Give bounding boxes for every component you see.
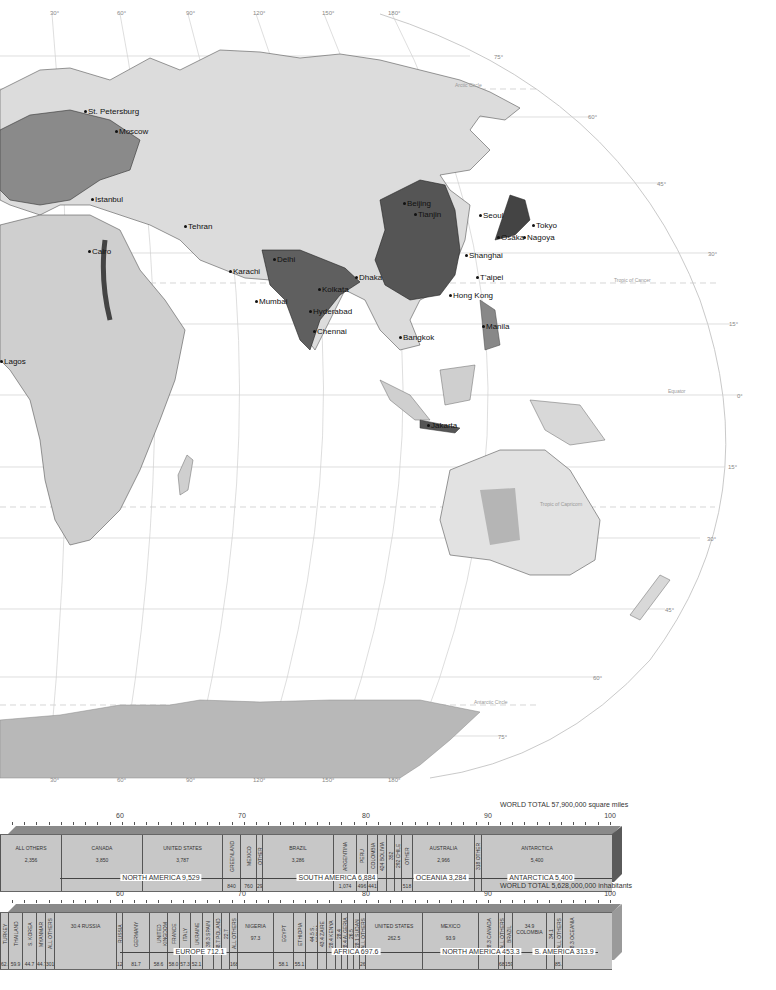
axis-tick-mark	[158, 822, 159, 825]
city-name: Jakarta	[431, 421, 457, 430]
bar-segment: NIGERIA97.3	[237, 913, 273, 969]
tropic-of-cancer-label: Tropic of Cancer	[614, 277, 651, 283]
axis-tick-mark	[49, 822, 50, 825]
new-guinea	[530, 400, 605, 445]
axis-tick-mark	[451, 822, 452, 825]
axis-tick-mark	[585, 900, 586, 903]
city-label: Dhaka	[355, 274, 382, 282]
bar-segment: MYANMAR44.7	[36, 913, 45, 969]
city-name: Lagos	[4, 357, 26, 366]
city-name: St. Petersburg	[88, 107, 139, 116]
segment-name: 28.4 KENYA	[328, 917, 334, 951]
continent-span-label: OCEANIA 3,284	[414, 874, 469, 881]
axis-tick-mark	[244, 900, 245, 903]
bar-segment: UNITED KINGDOM58.6	[149, 913, 167, 969]
city-dot-icon	[414, 213, 417, 216]
pop-world-total: WORLD TOTAL 5,628,000,000 inhabitants	[500, 882, 632, 889]
population-bar-chart: WORLD TOTAL 5,628,000,000 inhabitants 60…	[0, 882, 776, 982]
segment-value: 2,966	[413, 857, 474, 863]
city-name: Beijing	[407, 199, 431, 208]
axis-tick-mark	[207, 822, 208, 825]
lon-label: 150°	[322, 10, 334, 16]
segment-value: 55.1	[294, 961, 305, 967]
city-label: Hong Kong	[449, 292, 493, 300]
city-name: Shanghai	[469, 251, 503, 260]
city-name: Nagoya	[527, 233, 555, 242]
axis-tick-mark	[402, 900, 403, 903]
axis-tick-mark	[134, 822, 135, 825]
axis-tick-label: 90	[484, 812, 492, 819]
axis-tick-mark	[146, 900, 147, 903]
axis-tick-mark	[244, 822, 245, 825]
city-dot-icon	[88, 250, 91, 253]
bar-segment: MEXICO93.9	[422, 913, 478, 969]
axis-tick-mark	[415, 822, 416, 825]
antarctic-circle-label: Antarctic Circle	[474, 699, 508, 705]
lat-label: 45°	[665, 607, 674, 613]
city-name: Kolkata	[322, 285, 349, 294]
africa-landmass	[0, 215, 185, 545]
bar-segment: THAILAND59.9	[8, 913, 22, 969]
segment-name: 44.5 S. AFRICA	[309, 917, 318, 951]
lat-label: 15°	[729, 321, 738, 327]
lon-label: 120°	[253, 777, 265, 783]
axis-tick-mark	[110, 822, 111, 825]
city-label: Tehran	[184, 223, 212, 231]
axis-tick-mark	[49, 900, 50, 903]
city-label: Lagos	[0, 358, 26, 366]
segment-value: 3,787	[143, 857, 222, 863]
axis-tick-mark	[122, 822, 123, 825]
axis-tick-mark	[561, 900, 562, 903]
axis-tick-mark	[524, 900, 525, 903]
segment-value: 2,356	[1, 857, 61, 863]
axis-tick-label: 70	[238, 890, 246, 897]
axis-tick-mark	[268, 900, 269, 903]
bar-top-face	[8, 904, 621, 912]
city-name: Cairo	[92, 247, 111, 256]
segment-name: UKRAINE	[194, 917, 200, 951]
city-label: Cairo	[88, 248, 111, 256]
city-name: Chennai	[317, 327, 347, 336]
segment-name: 34.9 COLOMBIA	[513, 923, 546, 935]
axis-tick-mark	[366, 900, 367, 903]
axis-tick-mark	[512, 822, 513, 825]
axis-tick-mark	[232, 822, 233, 825]
axis-tick-mark	[85, 822, 86, 825]
continent-span-label: EUROPE 712.1	[173, 948, 226, 955]
city-name: Osaka	[501, 233, 524, 242]
lat-label: 30°	[708, 251, 717, 257]
lon-label: 30°	[50, 10, 59, 16]
borneo	[440, 365, 475, 405]
australia-landmass	[440, 450, 600, 575]
city-dot-icon	[476, 276, 479, 279]
axis-tick-mark	[268, 822, 269, 825]
lon-label: 150°	[322, 777, 334, 783]
segment-name: UNITED KINGDOM	[156, 917, 168, 951]
sumatra	[380, 380, 430, 420]
city-label: St. Petersburg	[84, 108, 139, 116]
city-name: Karachi	[233, 267, 260, 276]
segment-name: COLOMBIA	[370, 839, 376, 873]
axis-tick-mark	[561, 822, 562, 825]
tropic-of-capricorn-label: Tropic of Capricorn	[540, 501, 582, 507]
bar-segment: 38.7 POLAND	[213, 913, 221, 969]
lon-label: 180°	[388, 10, 400, 16]
axis-tick-label: 80	[362, 812, 370, 819]
axis-tick-mark	[341, 822, 342, 825]
axis-tick-mark	[549, 900, 550, 903]
axis-tick-label: 100	[604, 890, 616, 897]
axis-tick-mark	[451, 900, 452, 903]
axis-tick-mark	[305, 900, 306, 903]
segment-name: FRANCE	[171, 917, 177, 951]
new-zealand	[630, 575, 670, 620]
segment-value: 52.1	[191, 961, 202, 967]
area-world-total: WORLD TOTAL 57,900,000 square miles	[500, 801, 628, 808]
segment-name: UNITED STATES	[143, 845, 222, 851]
segment-value: 58.1	[274, 961, 293, 967]
city-dot-icon	[465, 254, 468, 257]
segment-value: 97.3	[238, 935, 273, 941]
axis-tick-mark	[97, 822, 98, 825]
city-dot-icon	[115, 130, 118, 133]
axis-tick-mark	[341, 900, 342, 903]
lat-label: 45°	[657, 181, 666, 187]
